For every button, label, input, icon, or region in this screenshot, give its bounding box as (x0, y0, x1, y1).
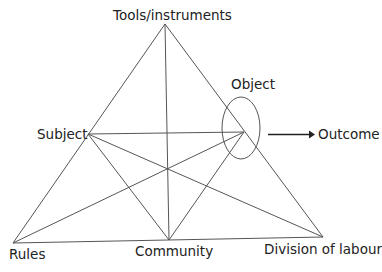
edge-tools-community (165, 24, 169, 240)
label-community: Community (135, 243, 213, 259)
edge-subject-division (88, 134, 323, 237)
edge-subject-object (88, 132, 244, 134)
label-tools: Tools/instruments (112, 7, 232, 23)
label-object: Object (231, 76, 275, 92)
object-ellipse (222, 97, 260, 159)
edge-tools-division (165, 24, 323, 237)
arrow-head-icon (309, 131, 315, 139)
label-rules: Rules (9, 246, 45, 262)
label-division-of-labour: Division of labour (264, 241, 382, 257)
label-outcome: Outcome (318, 126, 380, 142)
label-subject: Subject (37, 126, 87, 142)
activity-system-diagram: Tools/instruments Subject Object Outcome… (0, 0, 382, 272)
edge-community-object (169, 132, 244, 240)
